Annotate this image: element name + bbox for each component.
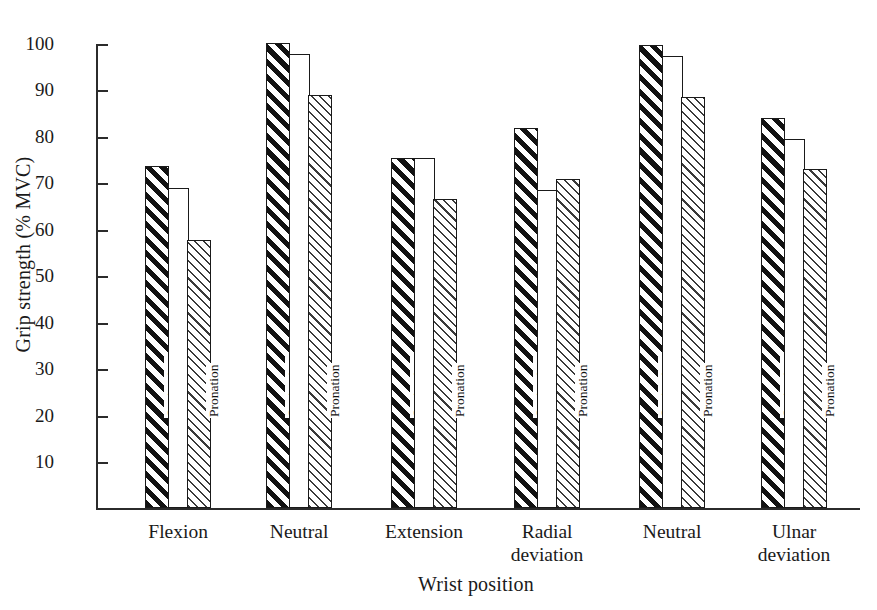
y-tick-40 [97, 323, 108, 325]
series-label-pronation: Pronation [575, 364, 591, 419]
bar-fill [267, 44, 289, 508]
bar-extension-supination [391, 158, 415, 508]
bar-fill [146, 167, 168, 508]
bar-neutral-supination [639, 45, 663, 508]
bar-fill [415, 159, 434, 507]
y-tick-80 [97, 137, 108, 139]
y-ticklabel-50: 50 [6, 266, 54, 285]
y-ticklabel-40: 40 [6, 313, 54, 332]
bar-ulnar-deviation-mid-position [784, 139, 805, 508]
bar-radial-deviation-supination [514, 128, 538, 509]
y-tick-60 [97, 230, 108, 232]
y-ticklabel-10: 10 [6, 452, 54, 471]
bar-fill [290, 55, 309, 508]
bar-extension-mid-position [414, 158, 435, 508]
bar-radial-deviation-pronation [556, 179, 580, 509]
y-tick-10 [97, 462, 108, 464]
bar-fill [309, 96, 331, 507]
bar-extension-pronation [433, 199, 457, 509]
y-ticklabel-30: 30 [6, 359, 54, 378]
x-category-label: Ulnar deviation [701, 520, 877, 566]
series-label-pronation: Pronation [822, 364, 838, 419]
y-axis-title: Grip strength (% MVC) [6, 0, 40, 509]
y-tick-50 [97, 276, 108, 278]
bar-neutral-mid-position [289, 54, 310, 509]
y-ticklabel-100: 100 [6, 34, 54, 53]
bar-neutral-pronation [308, 95, 332, 508]
bar-fill [804, 170, 826, 508]
y-ticklabel-80: 80 [6, 127, 54, 146]
bar-neutral-pronation [681, 97, 705, 508]
bar-fill [515, 129, 537, 508]
y-ticklabel-90: 90 [6, 80, 54, 99]
grip-strength-bar-chart: Grip strength (% MVC) 100 90 80 70 60 50… [0, 0, 877, 610]
bar-fill [785, 140, 804, 507]
x-axis-title: Wrist position [96, 573, 856, 596]
bar-fill [434, 200, 456, 508]
y-tick-30 [97, 369, 108, 371]
series-label-pronation: Pronation [327, 364, 343, 419]
bar-fill [762, 119, 784, 508]
bar-ulnar-deviation-pronation [803, 169, 827, 509]
y-tick-100 [97, 44, 108, 46]
bar-fill [557, 180, 579, 508]
y-ticklabel-20: 20 [6, 406, 54, 425]
y-tick-20 [97, 416, 108, 418]
bar-fill [640, 46, 662, 507]
bar-ulnar-deviation-supination [761, 118, 785, 509]
series-label-pronation: Pronation [206, 364, 222, 419]
bar-neutral-mid-position [662, 56, 683, 509]
bar-flexion-supination [145, 166, 169, 509]
series-label-pronation: Pronation [452, 364, 468, 419]
y-tick-70 [97, 183, 108, 185]
bar-neutral-supination [266, 43, 290, 509]
bar-fill [392, 159, 414, 507]
y-ticklabel-60: 60 [6, 220, 54, 239]
bar-fill [682, 98, 704, 507]
bar-fill [663, 57, 682, 508]
series-label-pronation: Pronation [700, 364, 716, 419]
y-ticklabel-70: 70 [6, 173, 54, 192]
y-tick-90 [97, 90, 108, 92]
